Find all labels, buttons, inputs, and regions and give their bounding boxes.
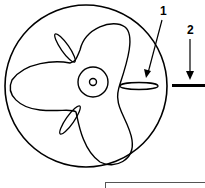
fin-upper-left [52,32,78,64]
outer-circle [5,5,167,167]
callout-1-label: 1 [160,5,167,17]
shaft-bar [172,84,205,87]
hub-inner [90,79,97,86]
hub-outer [78,67,108,97]
callout-1-arrow [148,20,162,73]
fin-right [120,83,158,90]
callout-2-label: 2 [187,24,194,36]
propeller-diagram [0,0,205,188]
callout-2-arrowhead [186,71,194,80]
callout-1-arrowhead [144,69,151,78]
fin-lower-left [57,104,83,136]
caption-box [105,182,205,188]
